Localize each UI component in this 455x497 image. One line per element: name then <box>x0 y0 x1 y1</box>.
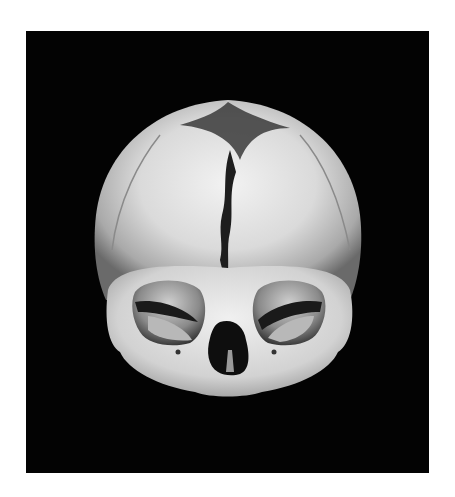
right-orbit <box>253 280 326 345</box>
skull-photo <box>0 0 455 497</box>
left-orbit <box>132 280 205 345</box>
left-infraorbital-foramen <box>176 350 181 355</box>
right-infraorbital-foramen <box>272 350 277 355</box>
